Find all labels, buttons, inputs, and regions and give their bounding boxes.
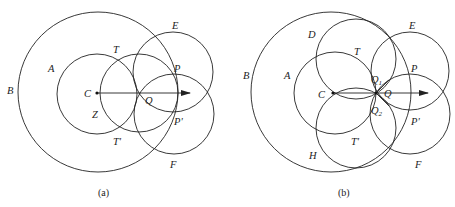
point-c-b xyxy=(331,91,334,94)
label-h-b: H xyxy=(308,150,318,161)
point-c-a xyxy=(95,91,98,94)
label-z-a: Z xyxy=(92,109,98,120)
label-p-prime-b: P' xyxy=(410,116,420,127)
panel-a: B A E F C Q T T' P P' Z (a) xyxy=(7,12,214,199)
point-q-b xyxy=(375,92,378,95)
label-q2-b: Q2 xyxy=(371,105,383,118)
label-b-a: B xyxy=(7,85,14,96)
label-a-a: A xyxy=(47,63,55,74)
caption-a: (a) xyxy=(98,187,109,199)
figure-svg: B A E F C Q T T' P P' Z (a) B A D H E F … xyxy=(0,0,455,207)
label-c-a: C xyxy=(84,88,92,99)
label-p-a: P xyxy=(173,63,181,74)
caption-b: (b) xyxy=(338,187,350,199)
label-q2-sub: 2 xyxy=(379,110,383,118)
label-t-prime-b: T' xyxy=(351,136,360,147)
label-t-b: T xyxy=(354,46,361,57)
circle-f-a xyxy=(134,74,214,154)
label-d-b: D xyxy=(307,29,316,40)
label-q-b: Q xyxy=(384,88,392,99)
label-e-b: E xyxy=(408,20,416,31)
label-q-a: Q xyxy=(145,95,153,106)
label-p-prime-a: P' xyxy=(173,116,183,127)
label-a-b: A xyxy=(283,70,291,81)
label-t-prime-a: T' xyxy=(113,136,122,147)
label-p-b: P xyxy=(410,63,418,74)
label-c-b: C xyxy=(318,89,326,100)
label-f-b: F xyxy=(414,159,422,170)
label-t-a: T xyxy=(113,44,120,55)
label-q1-b: Q1 xyxy=(371,74,382,87)
label-q1-sub: 1 xyxy=(379,79,383,87)
label-e-a: E xyxy=(171,20,179,31)
circle-d-b xyxy=(316,19,396,99)
circle-e-b xyxy=(371,32,449,110)
panel-b: B A D H E F C Q Q1 Q2 T T' P P' (b) xyxy=(243,12,450,199)
label-f-a: F xyxy=(169,159,177,170)
geometry-figure: B A E F C Q T T' P P' Z (a) B A D H E F … xyxy=(0,0,455,207)
label-b-b: B xyxy=(243,70,250,81)
